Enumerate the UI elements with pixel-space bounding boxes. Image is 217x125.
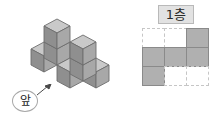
cube <box>70 35 96 65</box>
diagram-page: 앞 1층 앞 <box>0 0 217 125</box>
front-direction-label-left: 앞 <box>12 90 38 112</box>
plan-cell-r2c2 <box>164 47 187 67</box>
plan-cell-r3c1 <box>142 66 165 86</box>
plan-cell-r2c1 <box>142 47 165 67</box>
isometric-view-panel: 앞 <box>0 0 118 125</box>
floor-number-text: 1층 <box>166 8 186 21</box>
floor-plan-grid <box>142 28 208 85</box>
plan-cell-r3c2 <box>164 66 187 86</box>
plan-cell-r2c3 <box>186 47 209 67</box>
front-label-text: 앞 <box>20 95 31 107</box>
plan-cell-r1c1 <box>142 28 165 48</box>
floor-number-label: 1층 <box>158 5 194 24</box>
plan-cell-r1c2 <box>164 28 187 48</box>
arrow-diagonal-icon <box>36 84 52 96</box>
plan-cell-r1c3 <box>186 28 209 48</box>
plan-cell-r3c3 <box>186 66 209 86</box>
cube <box>44 19 70 49</box>
floor-plan-panel: 1층 앞 <box>118 0 217 125</box>
